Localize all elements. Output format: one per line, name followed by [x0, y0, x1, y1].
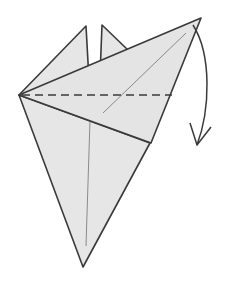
diagram-canvas [0, 0, 228, 290]
fold-arrow [193, 25, 207, 145]
origami-diagram [0, 0, 228, 290]
